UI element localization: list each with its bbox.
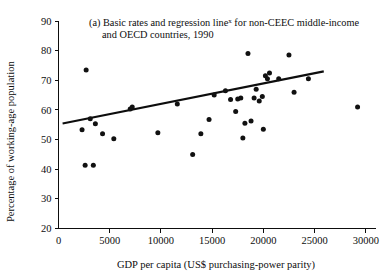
x-tick-label: 5000 xyxy=(99,235,120,246)
data-point xyxy=(267,70,272,75)
y-tick-label: 50 xyxy=(41,134,52,145)
x-tick-label: 20000 xyxy=(250,235,276,246)
data-point xyxy=(190,152,195,157)
data-point xyxy=(175,102,180,107)
data-point xyxy=(240,136,245,141)
regression-line-group xyxy=(63,71,324,123)
chart-title-line-2: and OECD countries, 1990 xyxy=(102,29,214,40)
data-point xyxy=(93,121,98,126)
data-point xyxy=(100,131,105,136)
chart-title-main: (a) Basic rates and regression line xyxy=(89,17,229,29)
chart-title-rest: for non-CEEC middle-income xyxy=(232,17,360,28)
data-point xyxy=(242,121,247,126)
x-tick-label: 30000 xyxy=(353,235,379,246)
data-point xyxy=(83,163,88,168)
data-point xyxy=(238,96,243,101)
y-axis-ticks: 2030405060708090 xyxy=(41,16,59,235)
data-point xyxy=(111,136,116,141)
data-point xyxy=(207,117,212,122)
y-tick-label: 70 xyxy=(41,75,52,86)
data-point xyxy=(265,76,270,81)
data-point xyxy=(245,51,250,56)
data-point xyxy=(355,104,360,109)
data-point xyxy=(212,93,217,98)
y-tick-label: 60 xyxy=(41,105,52,116)
data-point xyxy=(84,67,89,72)
data-point xyxy=(260,94,265,99)
data-point xyxy=(88,116,93,121)
data-point xyxy=(257,99,262,104)
y-tick-label: 20 xyxy=(41,223,52,234)
chart-title-line-1: (a) Basic rates and regression linex for… xyxy=(89,17,359,29)
x-tick-label: 0 xyxy=(56,235,61,246)
data-point xyxy=(261,127,266,132)
data-point xyxy=(249,118,254,123)
x-axis-title: GDP per capita (US$ purchasing-power par… xyxy=(117,259,316,271)
data-point xyxy=(254,87,259,92)
x-tick-label: 25000 xyxy=(301,235,327,246)
data-point xyxy=(130,104,135,109)
x-tick-label: 10000 xyxy=(148,235,174,246)
data-point xyxy=(292,90,297,95)
data-points-group xyxy=(80,51,361,168)
data-point xyxy=(276,76,281,81)
x-tick-label: 15000 xyxy=(199,235,225,246)
y-tick-label: 40 xyxy=(41,164,52,175)
chart-svg: (a) Basic rates and regression linex for… xyxy=(0,0,389,277)
regression-line xyxy=(63,71,324,123)
data-point xyxy=(198,131,203,136)
y-axis-title: Percentage of working-age population xyxy=(5,61,16,222)
data-point xyxy=(91,163,96,168)
data-point xyxy=(228,97,233,102)
data-point xyxy=(233,109,238,114)
data-point xyxy=(223,88,228,93)
data-point xyxy=(80,127,85,132)
data-point xyxy=(252,96,257,101)
scatter-chart-figure: (a) Basic rates and regression linex for… xyxy=(0,0,389,277)
data-point xyxy=(286,53,291,58)
y-tick-label: 30 xyxy=(41,193,52,204)
y-tick-label: 90 xyxy=(41,16,52,27)
y-tick-label: 80 xyxy=(41,45,52,56)
data-point xyxy=(155,130,160,135)
x-axis-ticks: 050001000015000200002500030000 xyxy=(56,229,379,246)
data-point xyxy=(306,76,311,81)
